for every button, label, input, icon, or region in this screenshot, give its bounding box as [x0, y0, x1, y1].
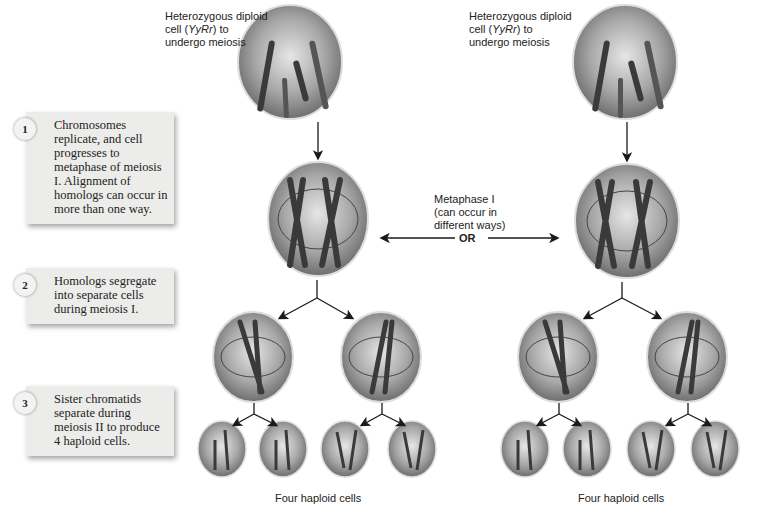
left-metaphase-cell: [268, 162, 368, 276]
right-mI-cell-b: [647, 312, 727, 402]
metaphase-label: Metaphase I (can occur in different ways…: [434, 193, 505, 232]
right-start-label: Heterozygous diploid cell (YyRr) to unde…: [469, 10, 572, 49]
left-haploid-caption: Four haploid cells: [275, 492, 361, 504]
metaphase-line3: different ways): [434, 219, 505, 232]
left-start-label-line2: cell (YyRr) to: [165, 23, 268, 36]
right-start-label-line3: undergo meiosis: [469, 36, 572, 49]
left-start-label: Heterozygous diploid cell (YyRr) to unde…: [165, 10, 268, 49]
or-label: OR: [459, 232, 476, 245]
right-start-label-line1: Heterozygous diploid: [469, 10, 572, 23]
left-mI-cell-a: [213, 312, 293, 402]
left-start-label-line1: Heterozygous diploid: [165, 10, 268, 23]
metaphase-line1: Metaphase I: [434, 193, 505, 206]
right-diploid-cell: [573, 5, 677, 119]
metaphase-line2: (can occur in: [434, 206, 505, 219]
left-mI-cell-b: [341, 312, 421, 402]
right-metaphase-cell: [575, 164, 679, 278]
right-haploid-caption: Four haploid cells: [578, 492, 664, 504]
right-haploid-cells: [501, 421, 739, 477]
left-start-label-line3: undergo meiosis: [165, 36, 268, 49]
meiosis-diagram: [0, 0, 758, 514]
right-start-label-line2: cell (YyRr) to: [469, 23, 572, 36]
left-haploid-cells: [198, 421, 436, 477]
right-mI-cell-a: [518, 312, 598, 402]
